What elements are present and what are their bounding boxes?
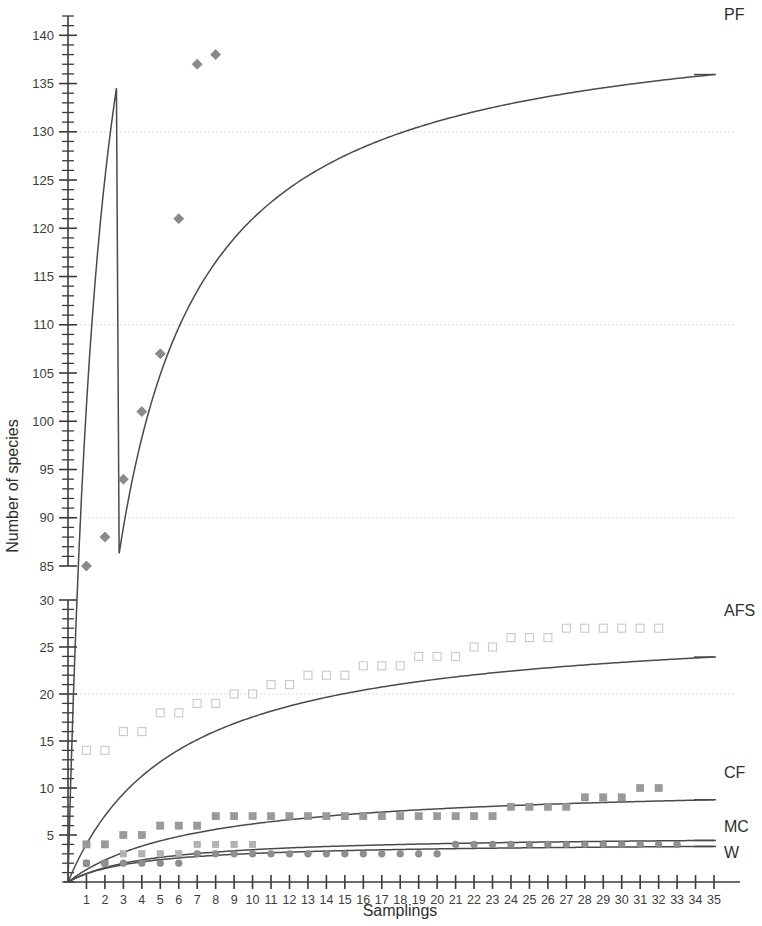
point-pf-1 [81, 561, 91, 571]
point-w-28 [581, 841, 588, 848]
y-axis-title: Number of species [4, 419, 21, 552]
x-tick-label-2: 2 [101, 893, 108, 907]
point-w-15 [341, 850, 348, 857]
point-afs-8 [212, 699, 220, 707]
point-afs-11 [267, 681, 275, 689]
point-afs-5 [156, 709, 164, 717]
point-w-20 [434, 850, 441, 857]
x-tick-label-30: 30 [615, 893, 629, 907]
point-afs-17 [378, 662, 386, 670]
y-tick-label-105: 105 [32, 366, 54, 381]
x-tick-label-24: 24 [504, 893, 518, 907]
series-label-w: W [724, 844, 740, 861]
x-tick-label-14: 14 [319, 893, 333, 907]
point-cf-14 [323, 813, 330, 820]
point-w-30 [618, 841, 625, 848]
point-w-2 [102, 860, 109, 867]
point-cf-32 [655, 784, 662, 791]
point-cf-13 [304, 813, 311, 820]
point-cf-28 [581, 794, 588, 801]
y-axis: 8590951001051101151201251301351405101520… [32, 16, 77, 882]
x-tick-label-35: 35 [707, 893, 721, 907]
x-tick-label-6: 6 [175, 893, 182, 907]
point-afs-25 [525, 634, 533, 642]
point-mc-5 [157, 851, 163, 857]
x-tick-label-13: 13 [301, 893, 315, 907]
point-w-26 [544, 841, 551, 848]
point-mc-6 [176, 851, 182, 857]
point-cf-21 [452, 813, 459, 820]
point-w-16 [360, 850, 367, 857]
y-tick-label-15: 15 [40, 734, 54, 749]
point-pf-6 [174, 214, 184, 224]
point-cf-26 [544, 803, 551, 810]
x-tick-label-34: 34 [689, 893, 703, 907]
y-tick-label-25: 25 [40, 640, 54, 655]
x-tick-label-26: 26 [541, 893, 555, 907]
point-w-10 [249, 850, 256, 857]
x-tick-label-32: 32 [652, 893, 666, 907]
x-tick-label-8: 8 [212, 893, 219, 907]
point-afs-26 [544, 634, 552, 642]
y-tick-label-30: 30 [40, 593, 54, 608]
point-afs-29 [599, 624, 607, 632]
x-tick-label-33: 33 [670, 893, 684, 907]
point-afs-28 [581, 624, 589, 632]
point-afs-4 [138, 728, 146, 736]
point-afs-27 [562, 624, 570, 632]
x-tick-label-12: 12 [283, 893, 297, 907]
point-w-11 [268, 850, 275, 857]
chart-canvas: 8590951001051101151201251301351405101520… [0, 0, 762, 926]
point-pf-5 [155, 349, 165, 359]
y-tick-label-135: 135 [32, 76, 54, 91]
x-tick-label-5: 5 [157, 893, 164, 907]
markers-mc [83, 841, 256, 866]
y-tick-label-130: 130 [32, 124, 54, 139]
x-tick-label-1: 1 [83, 893, 90, 907]
gridline-group [68, 132, 736, 694]
point-cf-23 [489, 813, 496, 820]
point-afs-15 [341, 671, 349, 679]
point-cf-7 [194, 822, 201, 829]
point-w-12 [286, 850, 293, 857]
markers-pf [81, 50, 220, 571]
point-cf-15 [341, 813, 348, 820]
point-afs-22 [470, 643, 478, 651]
point-afs-21 [452, 652, 460, 660]
point-mc-3 [120, 851, 126, 857]
point-w-33 [674, 841, 681, 848]
x-tick-label-22: 22 [467, 893, 481, 907]
point-w-22 [471, 841, 478, 848]
y-tick-label-115: 115 [33, 269, 54, 284]
point-w-9 [231, 850, 238, 857]
series-label-cf: CF [724, 764, 746, 781]
point-cf-30 [618, 794, 625, 801]
y-tick-label-20: 20 [40, 687, 54, 702]
point-w-19 [415, 850, 422, 857]
point-mc-9 [231, 841, 237, 847]
species-accumulation-chart: 8590951001051101151201251301351405101520… [0, 0, 762, 926]
point-w-21 [452, 841, 459, 848]
point-cf-25 [526, 803, 533, 810]
y-tick-label-125: 125 [32, 173, 54, 188]
point-mc-7 [194, 841, 200, 847]
data-point-markers [81, 50, 680, 867]
fitted-curve-pf [68, 75, 714, 882]
point-cf-2 [101, 841, 108, 848]
point-w-24 [508, 841, 515, 848]
point-cf-9 [231, 813, 238, 820]
point-afs-2 [101, 746, 109, 754]
point-afs-19 [415, 652, 423, 660]
point-cf-31 [637, 784, 644, 791]
point-pf-7 [192, 59, 202, 69]
point-w-14 [323, 850, 330, 857]
point-w-1 [83, 860, 90, 867]
point-cf-10 [249, 813, 256, 820]
point-cf-27 [563, 803, 570, 810]
point-cf-11 [267, 813, 274, 820]
series-label-pf: PF [724, 6, 745, 23]
x-tick-label-27: 27 [559, 893, 573, 907]
point-afs-14 [322, 671, 330, 679]
x-tick-label-7: 7 [194, 893, 201, 907]
point-w-8 [212, 850, 219, 857]
